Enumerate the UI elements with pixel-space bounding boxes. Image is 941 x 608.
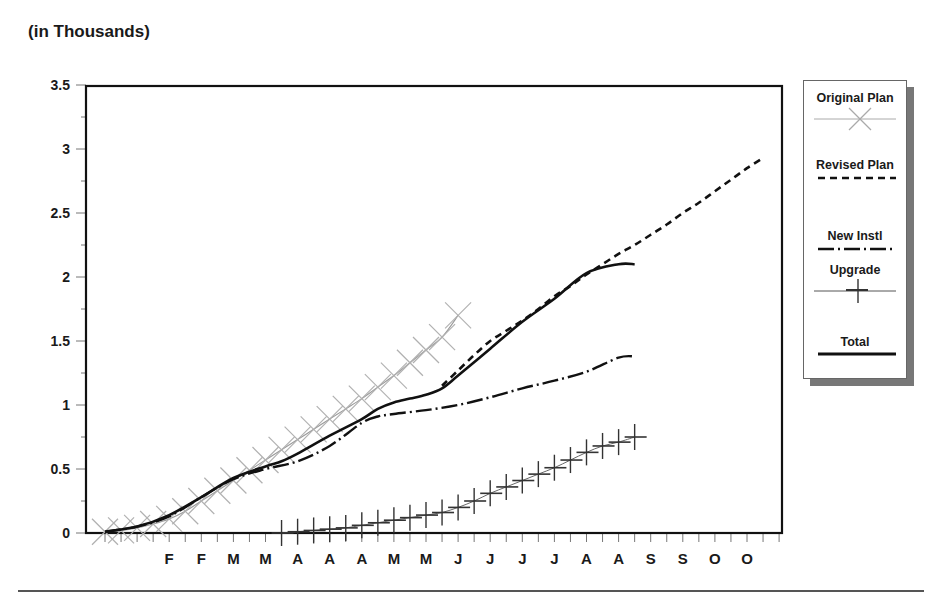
legend: Original Plan Revised Plan New Instl Upg… [803, 80, 907, 379]
legend-label: Upgrade [804, 263, 906, 277]
series-original-plan [92, 302, 471, 544]
x-tick-label: A [324, 550, 335, 567]
legend-label: Original Plan [804, 91, 906, 105]
x-tick-label: F [165, 550, 174, 567]
legend-label: Revised Plan [804, 158, 906, 172]
footer-divider [18, 590, 924, 592]
x-tick-label: S [678, 550, 688, 567]
x-tick-label: J [550, 550, 558, 567]
series-new-instl [105, 356, 635, 532]
y-tick-label: 3.5 [51, 77, 71, 93]
legend-item-revised-plan: Revised Plan [804, 158, 906, 184]
line-chart: 00.511.522.533.5 FFMMAAAMMJJJJAASSOO [0, 0, 941, 608]
solid-line-icon [810, 349, 900, 359]
x-tick-label: A [292, 550, 303, 567]
x-tick-label: M [259, 550, 272, 567]
series-upgrade [272, 424, 647, 546]
legend-label: Total [804, 335, 906, 349]
legend-item-upgrade: Upgrade [804, 263, 906, 305]
y-tick-label: 1 [62, 397, 70, 413]
series-revised-plan [442, 158, 763, 386]
y-tick-label: 1.5 [51, 333, 71, 349]
legend-item-original-plan: Original Plan [804, 91, 906, 133]
x-tick-label: J [454, 550, 462, 567]
y-tick-label: 0 [62, 525, 70, 541]
dash-dot-line-icon [810, 243, 900, 255]
y-axis: 00.511.522.533.5 [51, 77, 86, 541]
y-tick-label: 2 [62, 269, 70, 285]
x-marker-line-icon [810, 105, 900, 133]
legend-label: New Instl [804, 229, 906, 243]
y-tick-label: 3 [62, 141, 70, 157]
y-tick-label: 0.5 [51, 461, 71, 477]
plot-frame [86, 86, 782, 533]
x-tick-label: A [356, 550, 367, 567]
x-tick-label: F [197, 550, 206, 567]
y-tick-label: 2.5 [51, 205, 71, 221]
x-tick-label: A [581, 550, 592, 567]
x-tick-label: O [741, 550, 753, 567]
x-tick-label: S [646, 550, 656, 567]
x-axis: FFMMAAAMMJJJJAASSOO [105, 533, 779, 567]
x-tick-label: J [486, 550, 494, 567]
x-tick-label: J [518, 550, 526, 567]
dashed-line-icon [810, 172, 900, 184]
x-tick-label: A [613, 550, 624, 567]
legend-item-total: Total [804, 335, 906, 359]
series-layer [92, 158, 763, 546]
series-total [105, 264, 635, 532]
legend-item-new-instl: New Instl [804, 229, 906, 255]
x-tick-label: M [227, 550, 240, 567]
x-tick-label: O [709, 550, 721, 567]
x-tick-label: M [388, 550, 401, 567]
x-tick-label: M [420, 550, 433, 567]
plus-marker-line-icon [810, 277, 900, 305]
